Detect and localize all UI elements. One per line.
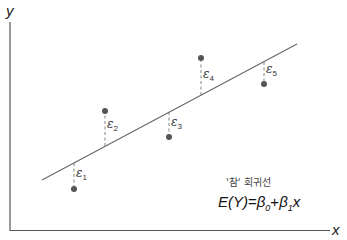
error-label-5: ε5 — [266, 62, 277, 78]
data-point-3 — [166, 134, 172, 140]
error-label-2: ε2 — [107, 117, 118, 133]
regression-formula: E(Y)=β0+β1x — [218, 193, 300, 213]
true-regression-line-caption: '참' 회귀선 — [226, 174, 271, 189]
data-point-1 — [71, 186, 77, 192]
regression-line — [42, 44, 297, 180]
data-point-2 — [102, 108, 108, 114]
residual-lines — [74, 61, 264, 186]
data-point-5 — [261, 81, 267, 87]
error-label-4: ε4 — [203, 67, 214, 83]
x-axis-label: x — [332, 221, 340, 238]
error-label-3: ε3 — [171, 115, 182, 131]
y-axis-label: y — [6, 2, 14, 19]
error-label-1: ε1 — [76, 166, 87, 182]
data-point-4 — [198, 55, 204, 61]
